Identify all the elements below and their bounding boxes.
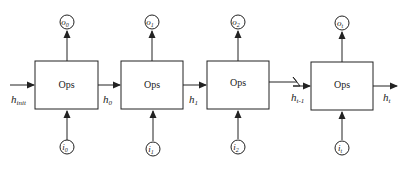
hidden-state-init: hinit: [10, 85, 34, 107]
cell-t: Ops ot it: [311, 16, 373, 155]
ops-label-0: Ops: [58, 79, 74, 90]
cell-1: Ops o1 i1: [121, 15, 183, 156]
hidden-state-t-minus-1: ht-1: [269, 77, 310, 105]
cell-0: Ops o0 i0: [35, 15, 98, 154]
rnn-diagram: Ops o0 i0 Ops o1 i1 Ops o2 i2 Ops ot: [0, 0, 406, 169]
cell-2: Ops o2 i2: [207, 15, 269, 154]
ops-label-1: Ops: [144, 79, 160, 90]
svg-text:ht: ht: [383, 91, 392, 105]
svg-text:h0: h0: [103, 93, 113, 107]
truncated-caption: [0, 165, 406, 169]
svg-text:hinit: hinit: [11, 93, 27, 107]
hidden-state-1: h1: [183, 85, 206, 107]
hidden-state-t: ht: [373, 86, 397, 105]
ops-label-2: Ops: [230, 77, 246, 88]
svg-text:ht-1: ht-1: [291, 91, 304, 105]
svg-text:h1: h1: [189, 93, 198, 107]
ops-label-t: Ops: [334, 79, 350, 90]
hidden-state-0: h0: [98, 85, 120, 107]
